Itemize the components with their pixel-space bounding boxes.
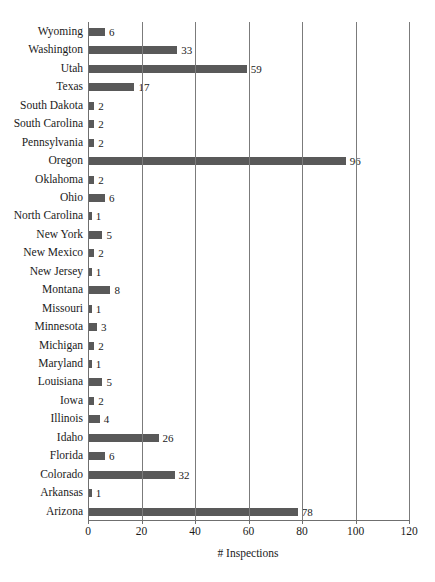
category-label-iowa: Iowa — [60, 395, 83, 407]
plot-area: Wyoming6Washington33Utah59Texas17South D… — [88, 22, 409, 520]
category-label-arkansas: Arkansas — [40, 487, 83, 499]
category-label-michigan: Michigan — [39, 340, 83, 352]
gridline-0 — [88, 22, 89, 520]
bar-value-label: 5 — [106, 229, 112, 240]
category-label-colorado: Colorado — [40, 469, 83, 481]
bar — [89, 323, 97, 331]
category-label-wyoming: Wyoming — [38, 26, 83, 38]
bar — [89, 286, 110, 294]
bar — [89, 46, 177, 54]
gridline-60 — [249, 22, 250, 520]
bar-value-label: 4 — [104, 414, 110, 425]
bar-value-label: 59 — [251, 63, 262, 74]
tick-mark-40 — [195, 520, 196, 524]
bar — [89, 434, 159, 442]
x-tick-label-100: 100 — [347, 526, 364, 538]
tick-mark-80 — [302, 520, 303, 524]
bar-value-label: 6 — [109, 451, 115, 462]
bar-value-label: 5 — [106, 377, 112, 388]
gridline-20 — [142, 22, 143, 520]
bar — [89, 176, 94, 184]
tick-mark-120 — [409, 520, 410, 524]
bar-value-label: 2 — [98, 248, 104, 259]
bar-value-label: 1 — [96, 488, 102, 499]
category-label-texas: Texas — [56, 82, 83, 94]
bar-value-label: 2 — [98, 100, 104, 111]
bar — [89, 231, 102, 239]
category-label-new-mexico: New Mexico — [23, 248, 83, 260]
category-label-south-dakota: South Dakota — [20, 100, 83, 112]
inspections-bar-chart: Wyoming6Washington33Utah59Texas17South D… — [0, 0, 435, 582]
bar — [89, 452, 105, 460]
bar-value-label: 2 — [98, 137, 104, 148]
bar — [89, 508, 298, 516]
bar — [89, 268, 92, 276]
bar-value-label: 17 — [138, 82, 149, 93]
bar — [89, 397, 94, 405]
gridline-100 — [356, 22, 357, 520]
bar — [89, 212, 92, 220]
bar — [89, 249, 94, 257]
gridline-40 — [195, 22, 196, 520]
bar — [89, 471, 175, 479]
gridline-80 — [302, 22, 303, 520]
category-label-missouri: Missouri — [42, 303, 83, 315]
x-axis-title-text: # Inspections — [217, 547, 278, 559]
category-label-washington: Washington — [28, 45, 83, 57]
x-tick-label-0: 0 — [85, 526, 91, 538]
bar-value-label: 1 — [96, 303, 102, 314]
x-tick-label-40: 40 — [189, 526, 201, 538]
bar-value-label: 6 — [109, 192, 115, 203]
bar-value-label: 1 — [96, 211, 102, 222]
category-label-louisiana: Louisiana — [38, 377, 83, 389]
bar-value-label: 78 — [302, 506, 313, 517]
bar — [89, 378, 102, 386]
bar-value-label: 2 — [98, 340, 104, 351]
bar — [89, 305, 92, 313]
bar-value-label: 1 — [96, 266, 102, 277]
category-label-north-carolina: North Carolina — [14, 211, 83, 223]
x-tick-label-20: 20 — [136, 526, 148, 538]
bar — [89, 139, 94, 147]
bar-value-label: 33 — [181, 45, 192, 56]
category-label-pennsylvania: Pennsylvania — [22, 137, 83, 149]
bar — [89, 65, 247, 73]
tick-mark-20 — [142, 520, 143, 524]
tick-mark-100 — [356, 520, 357, 524]
category-label-minnesota: Minnesota — [34, 321, 83, 333]
bar — [89, 157, 346, 165]
category-label-montana: Montana — [42, 284, 83, 296]
category-label-illinois: Illinois — [50, 414, 83, 426]
bar — [89, 489, 92, 497]
x-tick-label-120: 120 — [400, 526, 417, 538]
category-label-florida: Florida — [50, 450, 83, 462]
x-tick-label-60: 60 — [243, 526, 255, 538]
bar — [89, 415, 100, 423]
bar-value-label: 2 — [98, 174, 104, 185]
bar-value-label: 3 — [101, 322, 107, 333]
bar-value-label: 2 — [98, 395, 104, 406]
category-label-new-jersey: New Jersey — [30, 266, 83, 278]
bar-value-label: 8 — [114, 285, 120, 296]
bar-value-label: 2 — [98, 119, 104, 130]
category-label-new-york: New York — [36, 229, 83, 241]
bar — [89, 194, 105, 202]
category-label-south-carolina: South Carolina — [14, 118, 83, 130]
bar-value-label: 32 — [179, 469, 190, 480]
bar-value-label: 6 — [109, 26, 115, 37]
bar — [89, 83, 134, 91]
bar — [89, 28, 105, 36]
tick-mark-60 — [249, 520, 250, 524]
category-label-idaho: Idaho — [57, 432, 83, 444]
bar-value-label: 1 — [96, 358, 102, 369]
category-label-utah: Utah — [61, 63, 83, 75]
x-tick-label-80: 80 — [296, 526, 308, 538]
bar-value-label: 26 — [163, 432, 174, 443]
tick-mark-0 — [88, 520, 89, 524]
category-label-arizona: Arizona — [46, 506, 83, 518]
bar — [89, 360, 92, 368]
category-label-oklahoma: Oklahoma — [35, 174, 83, 186]
bar — [89, 120, 94, 128]
bar — [89, 342, 94, 350]
category-label-ohio: Ohio — [60, 192, 83, 204]
